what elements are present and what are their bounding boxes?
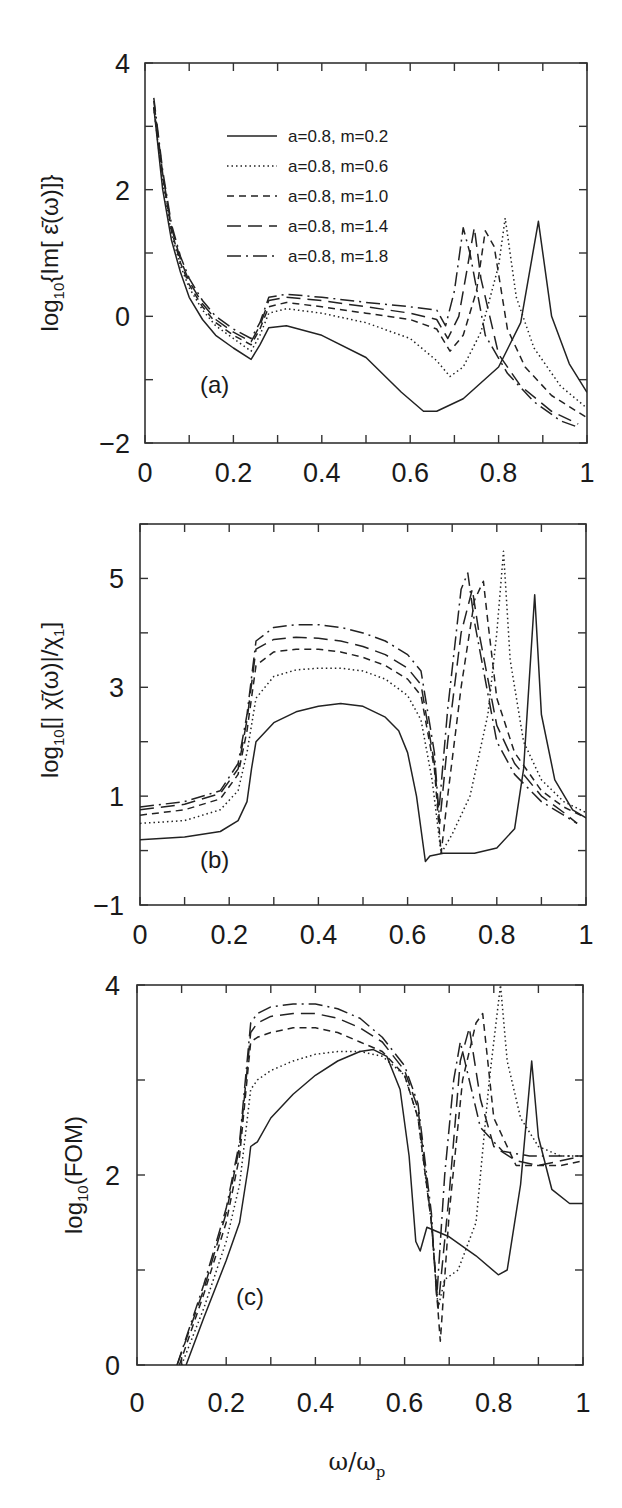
y-tick-label: 3: [109, 673, 124, 703]
x-tick-label: 0.2: [210, 920, 248, 950]
y-tick-label: 0: [105, 1351, 120, 1381]
y-tick-label: −2: [99, 429, 130, 459]
x-tick-label: 0: [129, 1388, 144, 1418]
panel-a-plot: 00.20.40.60.81−2024 (a) log10{Im[ ε̄(ω)]…: [36, 49, 595, 488]
x-tick-label: 0.8: [480, 458, 518, 488]
legend-label: a=0.8, m=1.8: [288, 247, 388, 266]
x-tick-label: 0.8: [475, 1388, 513, 1418]
x-tick-label: 0: [137, 458, 152, 488]
panel-a-legend: a=0.8, m=0.2a=0.8, m=0.6a=0.8, m=1.0a=0.…: [227, 127, 388, 266]
legend-label: a=0.8, m=0.2: [288, 127, 388, 146]
legend-label: a=0.8, m=1.4: [288, 217, 388, 236]
x-tick-label: 0.4: [300, 920, 338, 950]
panel-b-y-axis-label: log10[| χ̄(ω)|/χ1]: [36, 622, 67, 778]
y-tick-label: 2: [115, 176, 130, 206]
y-tick-label: −1: [93, 891, 124, 921]
x-tick-label: 0.2: [207, 1388, 245, 1418]
legend-label: a=0.8, m=1.0: [288, 187, 388, 206]
x-tick-label: 0.6: [386, 1388, 424, 1418]
figure-canvas: 00.20.40.60.81−2024 (a) log10{Im[ ε̄(ω)]…: [0, 0, 622, 1508]
y-tick-label: 0: [115, 302, 130, 332]
panel-c-plot: 00.20.40.60.81024 (c) log10(FOM) ω/ωp: [60, 971, 591, 1481]
x-tick-label: 0.2: [215, 458, 253, 488]
panel-b-plot: 00.20.40.60.81−1135 (b) log10[| χ̄(ω)|/χ…: [36, 524, 594, 950]
y-tick-label: 1: [109, 782, 124, 812]
x-tick-label: 1: [578, 920, 593, 950]
y-tick-label: 5: [109, 564, 124, 594]
panel-b-curves: [140, 551, 586, 861]
x-tick-label: 1: [579, 458, 594, 488]
x-tick-label: 0.8: [478, 920, 516, 950]
x-tick-label: 1: [575, 1388, 590, 1418]
curve-dotted: [140, 551, 586, 853]
curve-dashed: [179, 1014, 583, 1366]
x-tick-label: 0.4: [303, 458, 341, 488]
y-tick-label: 4: [115, 49, 130, 79]
panel-c-y-axis-label: log10(FOM): [60, 1116, 91, 1234]
panel-a-tick-labels: 00.20.40.60.81−2024: [99, 49, 594, 488]
y-tick-label: 2: [105, 1161, 120, 1191]
legend-label: a=0.8, m=0.6: [288, 157, 388, 176]
panel-a-y-axis-label: log10{Im[ ε̄(ω)]}: [36, 175, 67, 332]
x-tick-label: 0: [132, 920, 147, 950]
x-axis-label: ω/ωp: [329, 1448, 386, 1481]
curve-dash-dot: [177, 1004, 583, 1365]
x-tick-label: 0.6: [389, 920, 427, 950]
curve-dash-dot: [140, 573, 577, 823]
panel-c-tag: (c): [236, 1283, 264, 1310]
curve-solid: [140, 595, 586, 862]
panel-b-tag: (b): [200, 846, 229, 873]
panel-a-tag: (a): [200, 371, 229, 398]
x-tick-label: 0.6: [391, 458, 429, 488]
y-tick-label: 4: [105, 971, 120, 1001]
x-tick-label: 0.4: [297, 1388, 335, 1418]
panel-c-tick-labels: 00.20.40.60.81024: [105, 971, 591, 1418]
